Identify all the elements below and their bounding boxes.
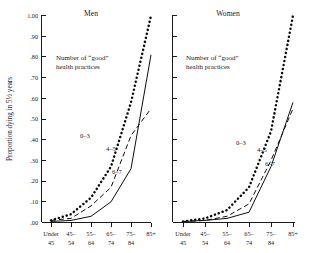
y-ticks-women xyxy=(173,16,177,223)
panel-title-men: Men xyxy=(84,9,98,18)
series-label-men-4-5: 4–5 xyxy=(106,145,117,152)
y-tick-label: .60 xyxy=(30,95,38,102)
x-tick-label: 65– xyxy=(106,230,116,237)
annotation-line-2-women: health practices xyxy=(186,63,230,71)
y-axis-title: Proportion dying in 5½ years xyxy=(6,77,14,161)
y-tick-label: .20 xyxy=(30,177,38,184)
series-men-0-3 xyxy=(51,16,151,221)
y-tick-label: .50 xyxy=(30,115,38,122)
annotation-line-2: health practices xyxy=(56,63,100,71)
y-tick-label: .10 xyxy=(30,198,38,205)
x-tick-label: 85+ xyxy=(146,230,156,237)
series-women-0-3 xyxy=(183,16,293,222)
x-tick-sublabel: 45 xyxy=(180,239,186,246)
x-tick-sublabel: 84 xyxy=(268,239,274,246)
series-label-women-6-7: 6–7 xyxy=(265,160,276,167)
x-tick-label: Under xyxy=(43,230,58,237)
x-tick-label: 85+ xyxy=(288,230,298,237)
x-tick-sublabel: 45 xyxy=(48,239,54,246)
x-tick-labels-women: Under 45– 55– 65– 75– 85+ 45 54 64 74 84 xyxy=(175,230,298,246)
x-tick-label: 55– xyxy=(222,230,232,237)
y-tick-labels-men: 1.00 .90 .80 .70 .60 .50 .40 .30 .20 .10… xyxy=(27,12,38,226)
panel-title-women: Women xyxy=(216,9,240,18)
series-women-6-7 xyxy=(183,102,293,221)
y-tick-label: .80 xyxy=(30,53,38,60)
x-tick-sublabel: 84 xyxy=(128,239,134,246)
x-tick-label: 75– xyxy=(266,230,276,237)
panel-women: Women xyxy=(173,9,299,246)
y-tick-label: .00 xyxy=(30,219,38,226)
y-tick-label: .90 xyxy=(30,33,38,40)
series-women-4-5 xyxy=(183,109,293,222)
series-men-4-5 xyxy=(51,109,151,221)
y-tick-label: 1.00 xyxy=(27,12,38,19)
figure-container: Men 1.00 .90 xyxy=(0,0,309,253)
series-label-men-6-7: 6–7 xyxy=(112,168,123,175)
annotation-line-1: Number of “good” xyxy=(56,54,108,62)
x-ticks-women xyxy=(183,223,293,228)
x-tick-label: 65– xyxy=(244,230,254,237)
x-tick-sublabel: 74 xyxy=(108,239,114,246)
x-tick-label: 45– xyxy=(200,230,210,237)
x-tick-sublabel: 54 xyxy=(202,239,208,246)
x-tick-label: Under xyxy=(175,230,190,237)
x-tick-sublabel: 54 xyxy=(68,239,74,246)
x-tick-sublabel: 74 xyxy=(246,239,252,246)
x-tick-label: 75– xyxy=(126,230,136,237)
series-label-women-0-3: 0–3 xyxy=(236,139,247,146)
series-label-men-0-3: 0–3 xyxy=(80,132,91,139)
y-tick-label: .30 xyxy=(30,157,38,164)
panel-men: Men 1.00 .90 xyxy=(6,9,156,246)
x-tick-sublabel: 64 xyxy=(224,239,230,246)
annotation-line-1-women: Number of “good” xyxy=(186,54,238,62)
y-ticks-men xyxy=(42,16,46,223)
x-tick-labels-men: Under 45– 55– 65– 75– 85+ 45 54 64 74 84 xyxy=(43,230,156,246)
x-tick-label: 45– xyxy=(66,230,76,237)
chart-canvas: Men 1.00 .90 xyxy=(0,0,309,253)
x-ticks-men xyxy=(51,223,151,228)
y-tick-label: .70 xyxy=(30,74,38,81)
y-tick-label: .40 xyxy=(30,136,38,143)
x-tick-sublabel: 64 xyxy=(88,239,94,246)
x-tick-label: 55– xyxy=(86,230,96,237)
series-label-women-4-5: 4–5 xyxy=(257,146,268,153)
